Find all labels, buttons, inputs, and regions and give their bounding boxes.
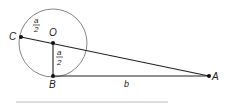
geometry-diagram: C O B A a 2 a 2 b (0, 0, 226, 105)
point-A (207, 74, 211, 78)
fraction-denominator: 2 (56, 58, 62, 67)
label-CO-fraction: a 2 (33, 16, 40, 34)
fraction-numerator: a (57, 48, 62, 57)
label-b: b (124, 79, 129, 89)
label-O: O (49, 27, 57, 38)
line-CA (21, 37, 209, 76)
label-A: A (211, 71, 219, 82)
fraction-denominator: 2 (33, 25, 39, 34)
fraction-numerator: a (34, 16, 39, 25)
label-C: C (9, 31, 17, 42)
label-B: B (49, 79, 56, 90)
point-C (19, 35, 23, 39)
label-OB-fraction: a 2 (56, 48, 63, 67)
point-O (51, 41, 55, 45)
point-B (51, 74, 55, 78)
